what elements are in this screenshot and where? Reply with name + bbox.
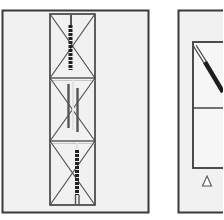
left-panel	[3, 11, 149, 213]
diagram-canvas	[0, 0, 223, 220]
right-panel	[179, 11, 224, 213]
frame-rect	[193, 42, 223, 168]
